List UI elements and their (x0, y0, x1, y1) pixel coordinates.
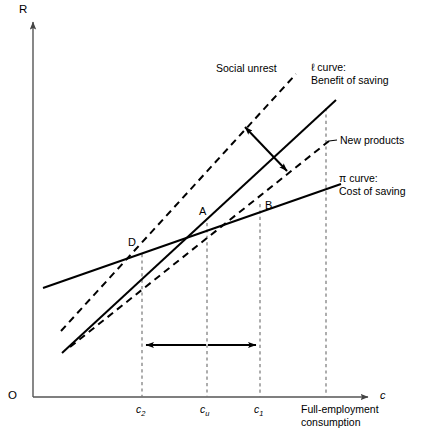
solid-curve-group (43, 100, 341, 353)
point-label-d: D (128, 236, 136, 249)
tick-c2-sub: 2 (141, 409, 145, 418)
x-axis-label: c (380, 389, 386, 402)
economics-diagram: R c O Social unrest ℓ curve: Benefit of … (0, 0, 430, 443)
tick-label-c2: c2 (136, 403, 145, 417)
point-label-a: A (199, 205, 206, 218)
diagram-canvas (0, 0, 430, 443)
point-label-b: B (265, 199, 272, 212)
new-products-label: New products (340, 134, 404, 147)
tick-cu-sub: u (205, 409, 209, 418)
new-products-curve (70, 141, 329, 347)
dashed-curve-group (61, 74, 329, 347)
tick-label-c1: c1 (254, 403, 263, 417)
tick-label-cu: cu (200, 403, 209, 417)
pi-curve (43, 184, 341, 288)
tick-c1-sub: 1 (259, 409, 263, 418)
pi-curve-label-line1: π curve: (339, 172, 378, 185)
origin-label: O (8, 389, 17, 402)
l-curve (62, 100, 336, 353)
l-curve-label-line2: Benefit of saving (311, 74, 389, 87)
l-curve-label-line1: ℓ curve: (311, 61, 346, 74)
full-employment-label-line2: consumption (301, 416, 361, 429)
pi-curve-label-line2: Cost of saving (339, 185, 406, 198)
social-unrest-curve (61, 74, 296, 331)
leader-line-new-products (329, 140, 337, 141)
leader-line-group (329, 140, 337, 141)
social-unrest-label: Social unrest (216, 62, 277, 75)
full-employment-label-line1: Full-employment (301, 403, 379, 416)
y-axis-label: R (19, 3, 27, 16)
